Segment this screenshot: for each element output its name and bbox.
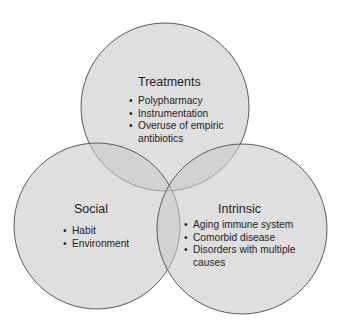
treatments-item: Polypharmacy xyxy=(129,95,224,108)
treatments-list: Polypharmacy Instrumentation Overuse of … xyxy=(129,95,224,145)
intrinsic-item: Comorbid disease xyxy=(184,232,295,245)
social-item: Environment xyxy=(63,238,129,251)
treatments-item: Overuse of empiric xyxy=(129,120,224,133)
treatments-title: Treatments xyxy=(138,75,201,89)
treatments-item-cont: antibiotics xyxy=(129,133,224,146)
intrinsic-item-cont: causes xyxy=(184,257,295,270)
social-item: Habit xyxy=(63,225,129,238)
intrinsic-item: Aging immune system xyxy=(184,219,295,232)
venn-diagram xyxy=(0,0,339,329)
treatments-item: Instrumentation xyxy=(129,108,224,121)
intrinsic-item: Disorders with multiple xyxy=(184,244,295,257)
social-title: Social xyxy=(74,202,108,216)
intrinsic-title: Intrinsic xyxy=(218,202,261,216)
social-list: Habit Environment xyxy=(63,225,129,250)
intrinsic-list: Aging immune system Comorbid disease Dis… xyxy=(184,219,295,269)
